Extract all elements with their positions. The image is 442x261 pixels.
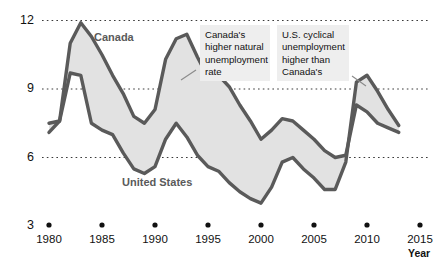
x-axis-label-2015: 2015 xyxy=(397,233,442,245)
x-axis-label-2000: 2000 xyxy=(238,233,284,245)
tick-dot-1990 xyxy=(152,222,157,227)
callout-canada-natural-rate: Canada's higher natural unemployment rat… xyxy=(200,25,270,81)
tick-dot-1980 xyxy=(46,222,51,227)
callout-left-line-2: higher natural xyxy=(205,41,265,53)
series-label-canada: Canada xyxy=(94,31,134,43)
callout-right-line-1: U.S. cyclical xyxy=(282,29,344,41)
callout-left-line-4: rate xyxy=(205,66,265,78)
x-axis-label-1995: 1995 xyxy=(185,233,231,245)
tick-dot-2015 xyxy=(417,222,422,227)
callout-right-line-3: higher than xyxy=(282,54,344,66)
x-axis-title: Year xyxy=(408,247,430,259)
unemployment-chart: 12 9 6 3 1980 1985 1990 1995 2000 2005 2… xyxy=(0,0,442,261)
tick-dot-1985 xyxy=(99,222,104,227)
callout-right-line-2: unemployment xyxy=(282,41,344,53)
callout-us-cyclical: U.S. cyclical unemployment higher than C… xyxy=(277,25,349,81)
y-axis-label-12: 12 xyxy=(12,13,34,27)
y-axis-label-3: 3 xyxy=(12,218,34,232)
tick-dot-1995 xyxy=(205,222,210,227)
x-axis-label-2010: 2010 xyxy=(344,233,390,245)
series-label-united-states: United States xyxy=(122,176,192,188)
x-axis-label-2005: 2005 xyxy=(291,233,337,245)
x-axis-label-1980: 1980 xyxy=(26,233,72,245)
x-axis-label-1990: 1990 xyxy=(132,233,178,245)
tick-dot-2010 xyxy=(364,222,369,227)
x-axis-tick-dots xyxy=(46,222,422,227)
y-axis-label-9: 9 xyxy=(12,81,34,95)
y-axis-label-6: 6 xyxy=(12,150,34,164)
tick-dot-2000 xyxy=(258,222,263,227)
callout-left-line-3: unemployment xyxy=(205,54,265,66)
callout-left-line-1: Canada's xyxy=(205,29,265,41)
callout-right-line-4: Canada's xyxy=(282,66,344,78)
x-axis-label-1985: 1985 xyxy=(79,233,125,245)
tick-dot-2005 xyxy=(311,222,316,227)
